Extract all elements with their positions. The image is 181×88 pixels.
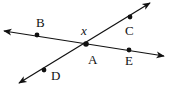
angle-x-label: x xyxy=(80,23,87,38)
point-a xyxy=(83,41,89,47)
point-label-b: B xyxy=(36,15,45,30)
point-label-a: A xyxy=(88,52,98,67)
point-c xyxy=(128,15,133,20)
point-label-c: C xyxy=(125,23,134,38)
point-label-e: E xyxy=(125,53,133,68)
point-e xyxy=(127,48,132,53)
point-label-d: D xyxy=(51,68,60,83)
geometry-diagram: BACED x xyxy=(0,0,181,88)
point-d xyxy=(42,68,47,73)
point-b xyxy=(35,33,40,38)
